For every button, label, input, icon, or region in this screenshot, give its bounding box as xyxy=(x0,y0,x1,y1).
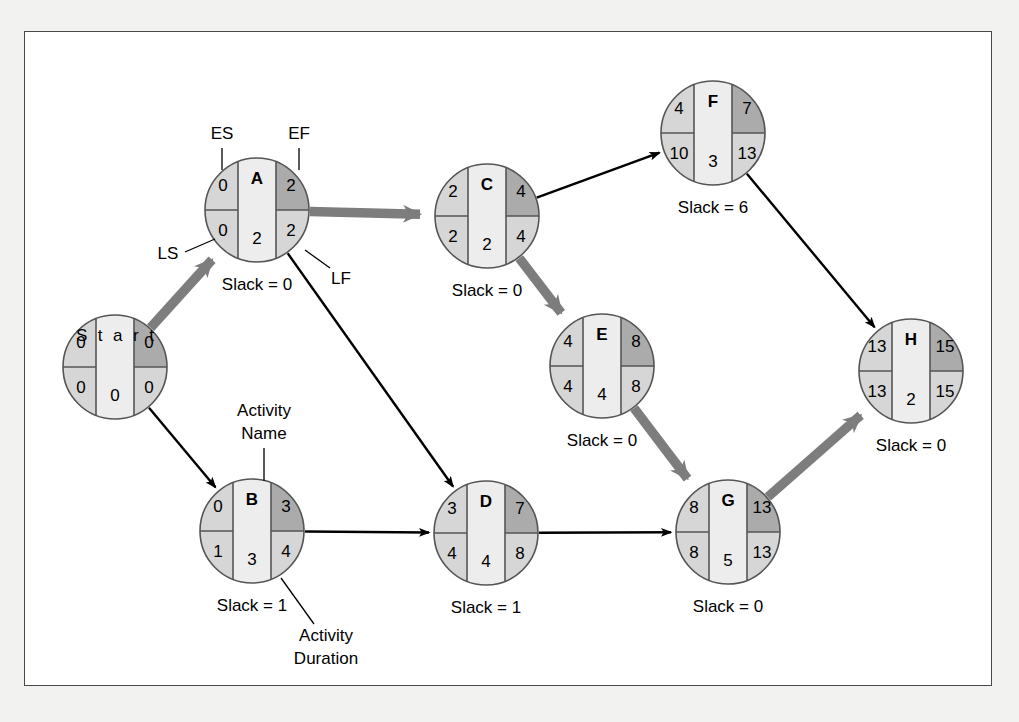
es-value-c: 2 xyxy=(448,182,457,201)
node-name-a: A xyxy=(251,169,263,188)
dependency-arrow xyxy=(747,174,875,327)
critical-path-arrow xyxy=(310,211,420,214)
edge-start-b xyxy=(149,408,215,488)
annotation-activity-duration-2: Duration xyxy=(294,649,358,668)
edge-a-d xyxy=(288,253,453,486)
annotation-ls: LS xyxy=(158,244,179,263)
dependency-arrow xyxy=(537,153,660,198)
node-name-d: D xyxy=(480,492,492,511)
duration-value-c: 2 xyxy=(482,235,491,254)
ef-value-c: 4 xyxy=(516,182,525,201)
slack-label-f: Slack = 6 xyxy=(678,198,748,217)
es-value-d: 3 xyxy=(447,499,456,518)
slack-label-d: Slack = 1 xyxy=(451,598,521,617)
edge-c-e xyxy=(519,258,561,313)
duration-value-a: 2 xyxy=(252,229,261,248)
es-value-a: 0 xyxy=(218,176,227,195)
duration-value-f: 3 xyxy=(708,152,717,171)
node-h[interactable]: H131513152Slack = 0 xyxy=(859,319,963,455)
edge-a-c xyxy=(310,211,420,214)
ef-value-d: 7 xyxy=(515,499,524,518)
ef-value-g: 13 xyxy=(753,498,772,517)
lf-value-e: 8 xyxy=(631,377,640,396)
node-name-h: H xyxy=(905,330,917,349)
duration-value-e: 4 xyxy=(597,385,606,404)
es-value-h: 13 xyxy=(868,337,887,356)
ef-value-f: 7 xyxy=(742,99,751,118)
node-g[interactable]: G8138135Slack = 0 xyxy=(676,480,780,616)
lf-value-b: 4 xyxy=(281,542,290,561)
lf-value-f: 13 xyxy=(738,144,757,163)
node-start[interactable]: Start00000 xyxy=(63,315,167,419)
dependency-arrow xyxy=(305,531,429,532)
ls-value-e: 4 xyxy=(563,377,572,396)
ef-value-e: 8 xyxy=(631,332,640,351)
annotation-lf: LF xyxy=(331,269,351,288)
node-b[interactable]: B03143Slack = 1 xyxy=(200,479,304,615)
node-e[interactable]: E48484Slack = 0 xyxy=(550,314,654,450)
annotation-activity-duration-1: Activity xyxy=(299,626,353,645)
slack-label-e: Slack = 0 xyxy=(567,431,637,450)
slack-label-c: Slack = 0 xyxy=(452,281,522,300)
ls-value-h: 13 xyxy=(868,382,887,401)
slack-label-b: Slack = 1 xyxy=(217,596,287,615)
edge-d-g xyxy=(539,532,671,533)
leader-ls xyxy=(185,239,215,252)
ls-value-f: 10 xyxy=(670,144,689,163)
slack-label-a: Slack = 0 xyxy=(222,275,292,294)
ls-value-g: 8 xyxy=(689,543,698,562)
annotation-es: ES xyxy=(211,124,234,143)
lf-value-c: 4 xyxy=(516,227,525,246)
edge-start-a xyxy=(151,260,213,328)
node-f[interactable]: F4710133Slack = 6 xyxy=(661,81,765,217)
lf-value-d: 8 xyxy=(515,544,524,563)
node-c[interactable]: C24242Slack = 0 xyxy=(435,164,539,300)
leader-lf xyxy=(305,250,330,268)
ls-value-d: 4 xyxy=(447,544,456,563)
ls-value-c: 2 xyxy=(448,227,457,246)
es-value-g: 8 xyxy=(689,498,698,517)
network-diagram-svg: Start00000A02022Slack = 0B03143Slack = 1… xyxy=(0,0,1019,722)
node-a[interactable]: A02022Slack = 0 xyxy=(205,158,309,294)
edge-c-f xyxy=(537,153,660,198)
diagram-canvas: Start00000A02022Slack = 0B03143Slack = 1… xyxy=(0,0,1019,722)
page-background: Start00000A02022Slack = 0B03143Slack = 1… xyxy=(0,0,1019,722)
dependency-arrow xyxy=(539,532,671,533)
ef-value-b: 3 xyxy=(281,497,290,516)
duration-value-h: 2 xyxy=(906,390,915,409)
lf-value-h: 15 xyxy=(936,382,955,401)
edge-g-h xyxy=(768,415,861,497)
critical-path-arrow xyxy=(151,260,213,328)
lf-value-start: 0 xyxy=(144,378,153,397)
edge-b-d xyxy=(305,531,429,532)
ef-value-a: 2 xyxy=(286,176,295,195)
ls-value-b: 1 xyxy=(213,542,222,561)
node-name-f: F xyxy=(708,92,718,111)
annotation-activity-name-2: Name xyxy=(241,424,286,443)
duration-value-b: 3 xyxy=(247,550,256,569)
es-value-e: 4 xyxy=(563,332,572,351)
lf-value-a: 2 xyxy=(286,221,295,240)
edge-e-g xyxy=(634,408,687,478)
dependency-arrow xyxy=(288,253,453,486)
node-d[interactable]: D37484Slack = 1 xyxy=(434,481,538,617)
nodes-layer: Start00000A02022Slack = 0B03143Slack = 1… xyxy=(63,81,963,617)
critical-path-arrow xyxy=(768,415,861,497)
node-name-b: B xyxy=(246,490,258,509)
dependency-arrow xyxy=(149,408,215,488)
node-name-e: E xyxy=(596,325,607,344)
critical-path-arrow xyxy=(634,408,687,478)
ls-value-a: 0 xyxy=(218,221,227,240)
duration-value-g: 5 xyxy=(723,551,732,570)
node-name-g: G xyxy=(721,491,734,510)
es-value-start: 0 xyxy=(76,333,85,352)
duration-value-d: 4 xyxy=(481,552,490,571)
slack-label-h: Slack = 0 xyxy=(876,436,946,455)
es-value-b: 0 xyxy=(213,497,222,516)
edge-f-h xyxy=(747,174,875,327)
annotation-ef: EF xyxy=(288,124,310,143)
lf-value-g: 13 xyxy=(753,543,772,562)
ls-value-start: 0 xyxy=(76,378,85,397)
ef-value-h: 15 xyxy=(936,337,955,356)
slack-label-g: Slack = 0 xyxy=(693,597,763,616)
